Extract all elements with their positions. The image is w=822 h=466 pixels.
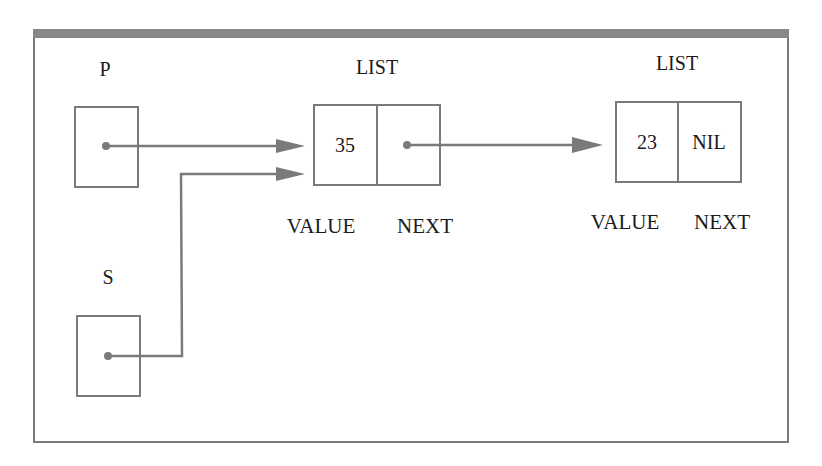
node-1-title: LIST — [356, 56, 398, 78]
node-1-next-label: NEXT — [397, 214, 453, 238]
list-node-1: LIST 35 VALUE NEXT — [287, 56, 453, 238]
node-1-value-label: VALUE — [287, 214, 355, 238]
node-1-value: 35 — [335, 134, 355, 156]
pointer-p-label: P — [99, 58, 110, 80]
node-2-value-label: VALUE — [591, 210, 659, 234]
arrow-p-to-node-1 — [106, 139, 305, 153]
list-node-2: LIST 23 NIL VALUE NEXT — [591, 52, 750, 234]
node-2-next-label: NEXT — [694, 210, 750, 234]
linked-list-diagram: P S LIST 35 VALUE NEXT LIST 23 NIL VALUE… — [0, 0, 822, 466]
arrowhead-icon — [276, 139, 305, 153]
pointer-s: S — [77, 266, 140, 396]
pointer-s-label: S — [102, 266, 113, 288]
node-2-next: NIL — [692, 131, 725, 153]
arrow-s-to-node-1 — [108, 167, 305, 356]
node-2-title: LIST — [656, 52, 698, 74]
arrowhead-icon — [276, 167, 305, 181]
arrow-node-1-to-node-2 — [407, 137, 603, 153]
pointer-p: P — [75, 58, 138, 187]
node-2-value: 23 — [637, 131, 657, 153]
arrowhead-icon — [572, 137, 603, 153]
